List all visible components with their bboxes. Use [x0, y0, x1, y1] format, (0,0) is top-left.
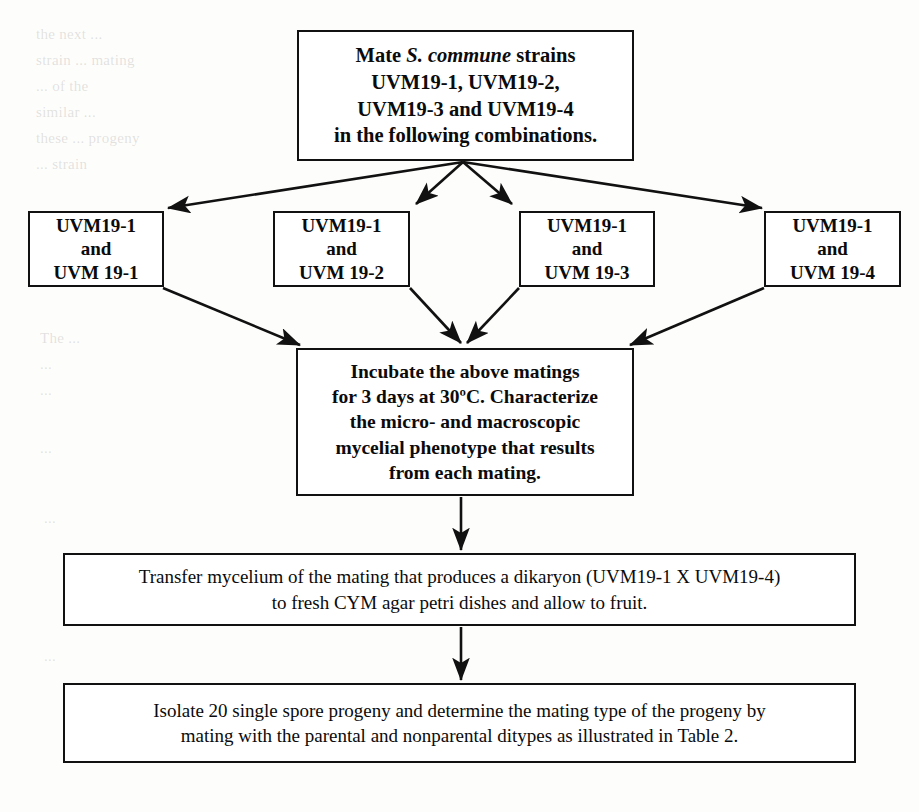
mate-line-4: in the following combinations. [334, 124, 597, 146]
node-combo-2-text: UVM19-1andUVM 19-2 [293, 214, 390, 284]
combo-2-line-2: and [326, 238, 357, 259]
connector-combo-2-to-incubate [410, 288, 461, 343]
node-mate-strains: Mate S. commune strainsUVM19-1, UVM19-2,… [297, 30, 634, 161]
bleedthrough-text-3: similar ... [36, 104, 96, 121]
connector-mate-to-combo-2 [416, 162, 463, 204]
node-isolate-progeny-text: Isolate 20 single spore progeny and dete… [147, 698, 772, 749]
isolate-line-2: mating with the parental and nonparental… [181, 725, 739, 746]
combo-3-line-1: UVM19-1 [547, 215, 627, 236]
combo-4-line-2: and [817, 238, 848, 259]
node-combo-1-text: UVM19-1andUVM 19-1 [48, 214, 145, 284]
bleedthrough-text-9: ... [40, 382, 52, 399]
transfer-line-1: Transfer mycelium of the mating that pro… [139, 566, 780, 587]
combo-2-line-1: UVM19-1 [301, 215, 381, 236]
combo-4-line-3: UVM 19-4 [790, 262, 875, 283]
bleedthrough-text-7: The ... [40, 330, 80, 347]
flowchart-page: the next ...strain ... mating... of thes… [0, 0, 919, 812]
node-combo-1: UVM19-1andUVM 19-1 [28, 211, 164, 287]
node-incubate-matings-text: Incubate the above matingsfor 3 days at … [326, 359, 604, 486]
node-transfer-mycelium: Transfer mycelium of the mating that pro… [63, 553, 856, 626]
bleedthrough-text-1: strain ... mating [36, 52, 135, 69]
bleedthrough-text-0: the next ... [36, 26, 103, 43]
node-combo-4-text: UVM19-1andUVM 19-4 [784, 214, 881, 284]
node-isolate-progeny: Isolate 20 single spore progeny and dete… [63, 683, 856, 763]
bleedthrough-text-8: ... [40, 356, 52, 373]
combo-3-line-3: UVM 19-3 [545, 262, 630, 283]
bleedthrough-text-11: ... [44, 510, 56, 527]
incubate-line-5: from each mating. [389, 462, 541, 483]
connector-mate-to-combo-1 [168, 162, 463, 208]
incubate-line-1: Incubate the above matings [350, 361, 579, 382]
incubate-line-2: for 3 days at 30ºC. Characterize [332, 386, 598, 407]
node-combo-3-text: UVM19-1andUVM 19-3 [539, 214, 636, 284]
connector-combo-1-to-incubate [163, 288, 300, 345]
node-combo-4: UVM19-1andUVM 19-4 [764, 211, 901, 287]
mate-line-2: UVM19-1, UVM19-2, [371, 71, 559, 93]
combo-3-line-2: and [572, 238, 603, 259]
mate-line-3: UVM19-3 and UVM19-4 [357, 98, 573, 120]
connector-mate-to-combo-4 [463, 162, 762, 208]
node-transfer-mycelium-text: Transfer mycelium of the mating that pro… [133, 564, 786, 615]
combo-1-line-2: and [81, 238, 112, 259]
connector-mate-to-combo-3 [463, 162, 512, 204]
mate-line-1-post: strains [511, 44, 575, 66]
bleedthrough-text-2: ... of the [36, 78, 89, 95]
incubate-line-4: mycelial phenotype that results [335, 437, 594, 458]
node-combo-3: UVM19-1andUVM 19-3 [519, 211, 655, 287]
bleedthrough-text-10: ... [40, 440, 52, 457]
bleedthrough-text-5: ... strain [36, 156, 87, 173]
combo-2-line-3: UVM 19-2 [299, 262, 384, 283]
node-incubate-matings: Incubate the above matingsfor 3 days at … [296, 348, 634, 496]
mate-line-1-pre: Mate [356, 44, 407, 66]
combo-4-line-1: UVM19-1 [792, 215, 872, 236]
bleedthrough-text-4: these ... progeny [36, 130, 140, 147]
connector-combo-3-to-incubate [467, 288, 519, 343]
transfer-line-2: to fresh CYM agar petri dishes and allow… [272, 592, 648, 613]
node-mate-strains-text: Mate S. commune strainsUVM19-1, UVM19-2,… [328, 42, 603, 149]
isolate-line-1: Isolate 20 single spore progeny and dete… [153, 700, 766, 721]
node-combo-2: UVM19-1andUVM 19-2 [273, 211, 410, 287]
bleedthrough-text-12: ... [44, 648, 56, 665]
combo-1-line-1: UVM19-1 [56, 215, 136, 236]
mate-species-name: S. commune [406, 44, 511, 66]
combo-1-line-3: UVM 19-1 [54, 262, 139, 283]
incubate-line-3: the micro- and macroscopic [350, 411, 581, 432]
connector-combo-4-to-incubate [630, 288, 764, 345]
